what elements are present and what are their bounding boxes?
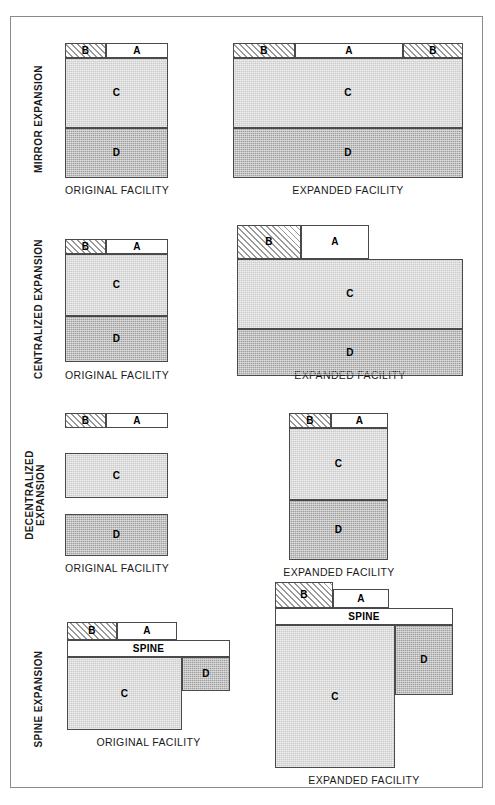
decentralized-expanded-zone-b: B bbox=[289, 413, 331, 428]
decentralized-expanded-zone-a: A bbox=[331, 413, 388, 428]
mirror-original-zone-a: A bbox=[106, 43, 168, 58]
zone-label-a: A bbox=[357, 594, 365, 604]
zone-label-d: D bbox=[420, 655, 428, 665]
zone-label-d: D bbox=[344, 148, 352, 158]
zone-label-b: B bbox=[306, 416, 314, 426]
spine-expanded-spine-bar: SPINE bbox=[275, 608, 453, 625]
zone-label-d: D bbox=[202, 669, 210, 679]
zone-label-c: C bbox=[335, 459, 343, 469]
zone-label-a: A bbox=[133, 416, 141, 426]
zone-label-d: D bbox=[113, 334, 121, 344]
zone-label-b: B bbox=[82, 242, 90, 252]
zone-label-c: C bbox=[113, 471, 121, 481]
centralized-expanded-zone-a: A bbox=[301, 225, 369, 259]
decentralized-expanded-zone-c: C bbox=[289, 428, 388, 500]
zone-label-b: B bbox=[429, 46, 437, 56]
mirror-expanded-zone-a: A bbox=[295, 43, 403, 58]
decentralized-original-zone-d: D bbox=[65, 514, 168, 556]
zone-label-d: D bbox=[113, 148, 121, 158]
spine-expanded-zone-b: B bbox=[275, 582, 333, 608]
spine-expanded-zone-a: A bbox=[333, 589, 389, 608]
mirror-expanded-zone-d: D bbox=[233, 128, 463, 178]
zone-label-a: A bbox=[133, 46, 141, 56]
mirror-original-zone-c: C bbox=[65, 58, 168, 128]
mirror-expanded-zone-b-left: B bbox=[233, 43, 295, 58]
zone-label-c: C bbox=[346, 289, 354, 299]
decentralized-original-zone-a: A bbox=[106, 413, 168, 428]
zone-label-c: C bbox=[113, 280, 121, 290]
zone-label-spine: SPINE bbox=[133, 644, 165, 654]
zone-label-a: A bbox=[143, 626, 151, 636]
spine-original-zone-d: D bbox=[182, 657, 230, 691]
zone-label-a: A bbox=[356, 416, 364, 426]
spine-original-zone-c: C bbox=[67, 657, 182, 730]
zone-label-a: A bbox=[345, 46, 353, 56]
centralized-expanded-zone-b: B bbox=[237, 225, 301, 259]
row-label-spine: SPINE EXPANSION bbox=[31, 631, 45, 767]
diagram-frame: MIRROR EXPANSION B A C D ORIGINAL FACILI… bbox=[10, 16, 483, 788]
centralized-original-zone-a: A bbox=[106, 239, 168, 254]
zone-label-spine: SPINE bbox=[348, 612, 380, 622]
zone-label-a: A bbox=[133, 242, 141, 252]
centralized-original-zone-c: C bbox=[65, 254, 168, 316]
decentralized-expanded-zone-d: D bbox=[289, 500, 388, 560]
row-label-decentralized: DECENTRALIZED EXPANSION bbox=[22, 430, 48, 560]
zone-label-d: D bbox=[335, 525, 343, 535]
zone-label-d: D bbox=[113, 530, 121, 540]
zone-label-c: C bbox=[113, 88, 121, 98]
centralized-original-zone-b: B bbox=[65, 239, 106, 254]
zone-label-c: C bbox=[344, 88, 352, 98]
zone-label-b: B bbox=[260, 46, 268, 56]
centralized-original-caption: ORIGINAL FACILITY bbox=[65, 369, 168, 381]
zone-label-b: B bbox=[88, 626, 96, 636]
row-label-mirror: MIRROR EXPANSION bbox=[31, 49, 45, 189]
mirror-original-zone-b: B bbox=[65, 43, 106, 58]
zone-label-b: B bbox=[265, 237, 273, 247]
zone-label-b: B bbox=[300, 590, 308, 600]
spine-original-zone-a: A bbox=[117, 622, 177, 640]
zone-label-b: B bbox=[82, 46, 90, 56]
mirror-expanded-caption: EXPANDED FACILITY bbox=[233, 184, 463, 196]
spine-original-spine-bar: SPINE bbox=[67, 640, 230, 657]
mirror-expanded-zone-b-right: B bbox=[403, 43, 463, 58]
centralized-original-zone-d: D bbox=[65, 316, 168, 362]
spine-original-caption: ORIGINAL FACILITY bbox=[67, 736, 230, 748]
facility-expansion-diagram: MIRROR EXPANSION B A C D ORIGINAL FACILI… bbox=[0, 0, 495, 805]
spine-expanded-zone-d: D bbox=[395, 625, 453, 695]
centralized-expanded-caption: EXPANDED FACILITY bbox=[237, 369, 463, 381]
decentralized-expanded-caption: EXPANDED FACILITY bbox=[279, 566, 399, 578]
decentralized-original-zone-b: B bbox=[65, 413, 106, 428]
decentralized-original-caption: ORIGINAL FACILITY bbox=[65, 562, 168, 574]
decentralized-original-zone-c: C bbox=[65, 453, 168, 498]
centralized-expanded-zone-c: C bbox=[237, 259, 463, 329]
spine-original-zone-b: B bbox=[67, 622, 117, 640]
mirror-expanded-zone-c: C bbox=[233, 58, 463, 128]
zone-label-c: C bbox=[121, 689, 129, 699]
mirror-original-caption: ORIGINAL FACILITY bbox=[65, 184, 168, 196]
spine-expanded-caption: EXPANDED FACILITY bbox=[275, 774, 453, 786]
spine-expanded-zone-c: C bbox=[275, 625, 395, 768]
zone-label-d: D bbox=[346, 348, 354, 358]
zone-label-a: A bbox=[331, 237, 339, 247]
mirror-original-zone-d: D bbox=[65, 128, 168, 178]
row-label-centralized: CENTRALIZED EXPANSION bbox=[31, 239, 45, 379]
zone-label-c: C bbox=[331, 692, 339, 702]
zone-label-b: B bbox=[82, 416, 90, 426]
